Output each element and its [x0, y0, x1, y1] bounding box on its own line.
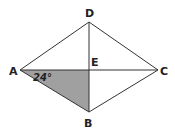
label-A: A [9, 65, 18, 78]
label-C: C [160, 65, 168, 78]
label-D: D [85, 7, 94, 20]
label-B: B [84, 117, 92, 130]
label-E: E [91, 56, 99, 69]
angle-label-A: 24° [33, 72, 52, 83]
rhombus-diagram: D A C E B 24° [0, 0, 175, 135]
